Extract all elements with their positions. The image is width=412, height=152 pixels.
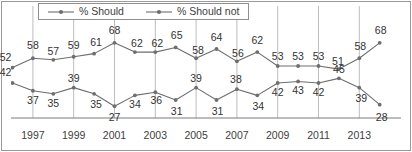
data-point-marker <box>378 41 382 45</box>
value-label: 58 <box>354 41 366 52</box>
value-label: 38 <box>230 74 242 85</box>
chart-legend: % Should % Should not <box>38 3 249 20</box>
x-axis-tick-label: 2011 <box>307 130 330 141</box>
x-axis-tick-label: 2003 <box>144 130 167 141</box>
value-label: 31 <box>212 106 224 117</box>
legend-label-should-not: % Should not <box>177 6 239 17</box>
data-point-marker <box>174 46 178 50</box>
value-label: 68 <box>375 25 387 36</box>
data-point-marker <box>11 81 14 85</box>
value-label: 52 <box>0 51 11 62</box>
value-label: 53 <box>292 51 304 62</box>
data-point-marker <box>31 56 35 60</box>
data-point-marker <box>113 104 117 108</box>
legend-label-should: % Should <box>79 6 124 17</box>
data-point-marker <box>51 92 55 96</box>
value-label: 64 <box>211 32 223 43</box>
x-axis-tick-label: 2005 <box>184 130 207 141</box>
value-label: 53 <box>272 51 284 62</box>
value-label: 42 <box>313 87 325 98</box>
data-point-marker <box>133 93 137 97</box>
x-axis-tick-label: 1999 <box>62 130 85 141</box>
data-point-marker <box>276 64 280 68</box>
value-label: 35 <box>47 98 59 109</box>
data-point-marker <box>174 98 178 102</box>
value-label: 68 <box>109 25 121 36</box>
x-axis-labels: 199719992001200320052007200920112013 <box>0 130 412 150</box>
value-label: 65 <box>171 30 183 41</box>
data-point-marker <box>194 86 198 90</box>
data-point-marker <box>296 80 300 84</box>
data-point-marker <box>317 81 321 85</box>
value-label: 53 <box>313 51 325 62</box>
data-point-marker <box>215 98 219 102</box>
data-point-marker <box>235 87 239 91</box>
value-label: 39 <box>68 72 80 83</box>
legend-line-dot-marker-icon <box>48 8 74 16</box>
data-point-marker <box>317 64 321 68</box>
data-point-marker <box>72 86 76 90</box>
x-axis-tick-label: 2001 <box>103 130 126 141</box>
data-point-marker <box>133 50 137 54</box>
x-axis-tick-label: 2007 <box>225 130 248 141</box>
data-point-marker <box>51 58 55 62</box>
data-point-marker <box>255 50 259 54</box>
value-label: 58 <box>192 45 204 56</box>
value-label: 62 <box>251 35 263 46</box>
value-label: 39 <box>190 72 202 83</box>
value-label: 57 <box>47 46 59 57</box>
value-label: 45 <box>333 64 345 75</box>
value-label: 61 <box>90 36 102 47</box>
x-axis-tick-label: 2013 <box>348 130 371 141</box>
data-point-marker <box>31 89 35 93</box>
value-label: 42 <box>0 67 11 78</box>
data-point-marker <box>276 81 280 85</box>
data-point-marker <box>378 103 382 107</box>
data-point-marker <box>337 76 341 80</box>
data-point-marker <box>194 56 198 60</box>
data-point-marker <box>357 56 361 60</box>
data-point-marker <box>235 59 239 63</box>
data-point-marker <box>296 64 300 68</box>
data-point-marker <box>215 47 219 51</box>
data-point-marker <box>153 50 157 54</box>
x-axis-tick-label: 1997 <box>21 130 44 141</box>
data-point-marker <box>72 55 76 59</box>
data-point-marker <box>357 86 361 90</box>
data-point-marker <box>255 93 259 97</box>
value-label: 36 <box>150 95 162 106</box>
value-label: 39 <box>355 92 367 103</box>
value-label: 28 <box>376 111 388 122</box>
value-label: 31 <box>171 106 183 117</box>
value-label: 43 <box>292 85 304 96</box>
value-label: 37 <box>27 94 39 105</box>
legend-item-should[interactable]: % Should <box>48 6 124 17</box>
value-label: 59 <box>68 39 80 50</box>
legend-item-should-not[interactable]: % Should not <box>146 6 239 17</box>
x-axis-tick-label: 2009 <box>266 130 289 141</box>
value-label: 34 <box>129 99 141 110</box>
data-point-marker <box>92 92 96 96</box>
value-label: 62 <box>131 38 143 49</box>
value-label: 34 <box>252 101 264 112</box>
value-label: 58 <box>27 40 39 51</box>
value-label: 42 <box>272 87 284 98</box>
value-label: 56 <box>232 48 244 59</box>
data-point-marker <box>113 41 117 45</box>
legend-line-dot-marker-icon <box>146 8 172 16</box>
value-label: 27 <box>109 112 121 123</box>
data-point-marker <box>92 52 96 56</box>
value-label: 35 <box>90 99 102 110</box>
chart-container: 5258575961686262655864566253535351586842… <box>0 0 412 152</box>
value-label: 62 <box>151 38 163 49</box>
